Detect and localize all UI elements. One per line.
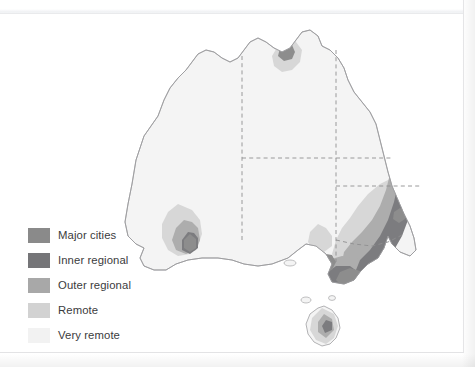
map-legend: Major cities Inner regional Outer region… [28,223,178,348]
map-offshore-islands [284,260,336,303]
legend-item-inner-regional: Inner regional [28,248,178,273]
swatch-outer-regional [28,278,50,293]
legend-item-very-remote: Very remote [28,323,178,348]
map-tasmania [306,306,340,346]
legend-label-inner-regional: Inner regional [58,255,128,266]
swatch-major-cities [28,228,50,243]
legend-label-outer-regional: Outer regional [58,280,131,291]
figure-card: Major cities Inner regional Outer region… [0,0,464,353]
swatch-very-remote [28,328,50,343]
swatch-inner-regional [28,253,50,268]
legend-label-remote: Remote [58,305,98,316]
legend-label-major-cities: Major cities [58,230,116,241]
legend-item-outer-regional: Outer regional [28,273,178,298]
legend-item-major-cities: Major cities [28,223,178,248]
legend-item-remote: Remote [28,298,178,323]
swatch-remote [28,303,50,318]
legend-label-very-remote: Very remote [58,330,120,341]
